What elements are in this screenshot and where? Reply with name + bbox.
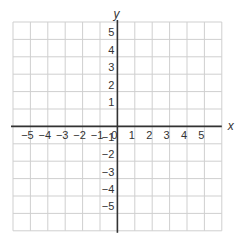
y-tick-label: 2 (108, 79, 114, 91)
y-tick-labels: 54321−1−2−3−4−5 (102, 26, 115, 212)
axes (11, 20, 222, 233)
y-tick-label: −2 (102, 148, 115, 160)
y-axis-label: y (112, 7, 120, 21)
x-tick-label: −3 (56, 129, 69, 141)
y-tick-label: −1 (102, 131, 115, 143)
x-tick-label: −2 (73, 129, 86, 141)
x-tick-label: 4 (181, 129, 187, 141)
x-tick-label: −5 (21, 129, 34, 141)
x-tick-label: −4 (39, 129, 52, 141)
y-tick-label: 1 (108, 96, 114, 108)
y-tick-label: 5 (108, 26, 114, 38)
y-tick-label: 3 (108, 61, 114, 73)
x-tick-label: 3 (164, 129, 170, 141)
x-tick-label: 2 (146, 129, 152, 141)
y-tick-label: −5 (102, 200, 115, 212)
x-tick-label: 5 (198, 129, 204, 141)
x-tick-label: 1 (129, 129, 135, 141)
x-axis-label: x (227, 119, 235, 133)
y-tick-label: −3 (102, 166, 115, 178)
y-tick-label: −4 (102, 183, 115, 195)
y-tick-label: 4 (108, 44, 114, 56)
coordinate-plane: −5−4−3−2−1012345 54321−1−2−3−4−5 x y (0, 0, 245, 246)
